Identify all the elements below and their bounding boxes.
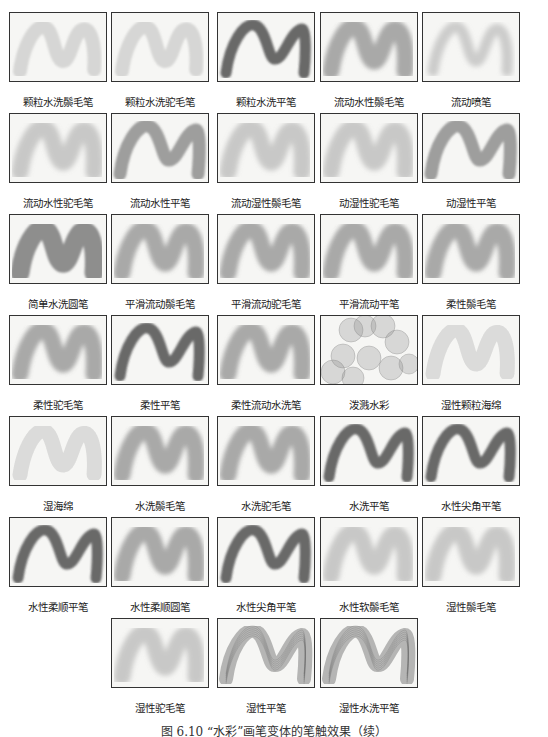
brush-variant-label: 流动水性平笔 bbox=[101, 195, 219, 210]
brush-stroke-preview bbox=[422, 517, 520, 587]
brush-variant-label: 湿性驼毛笔 bbox=[101, 700, 219, 715]
brush-variant-label: 柔性鬃毛笔 bbox=[412, 296, 530, 311]
brush-variant-label: 柔性平笔 bbox=[101, 397, 219, 412]
brush-variant-label: 动湿性驼毛笔 bbox=[310, 195, 428, 210]
brush-stroke-preview bbox=[217, 517, 315, 587]
brush-variant-label: 水洗鬃毛笔 bbox=[101, 498, 219, 513]
brush-stroke-preview bbox=[422, 12, 520, 82]
brush-stroke-preview bbox=[111, 113, 209, 183]
brush-stroke-preview bbox=[9, 416, 107, 486]
brush-variant-label: 水性柔顺平笔 bbox=[0, 599, 117, 614]
brush-stroke-preview bbox=[320, 214, 418, 284]
brush-stroke-preview bbox=[111, 618, 209, 688]
brush-variant-label: 颗粒水洗平笔 bbox=[207, 94, 325, 109]
brush-variant-label: 柔性驼毛笔 bbox=[0, 397, 117, 412]
brush-stroke-preview bbox=[320, 618, 418, 688]
brush-variant-label: 湿海绵 bbox=[0, 498, 117, 513]
brush-stroke-preview bbox=[217, 416, 315, 486]
brush-stroke-preview bbox=[422, 214, 520, 284]
brush-variant-label: 水性尖角平笔 bbox=[207, 599, 325, 614]
brush-variant-label: 柔性流动水洗笔 bbox=[207, 397, 325, 412]
brush-variant-label: 流动喷笔 bbox=[412, 94, 530, 109]
brush-stroke-preview bbox=[422, 416, 520, 486]
brush-variant-label: 流动湿性鬃毛笔 bbox=[207, 195, 325, 210]
brush-variant-label: 水性尖角平笔 bbox=[412, 498, 530, 513]
brush-variant-label: 水洗平笔 bbox=[310, 498, 428, 513]
brush-stroke-preview bbox=[320, 416, 418, 486]
brush-stroke-preview bbox=[217, 214, 315, 284]
brush-stroke-preview bbox=[422, 315, 520, 385]
brush-stroke-preview bbox=[320, 113, 418, 183]
brush-variant-label: 平滑流动驼毛笔 bbox=[207, 296, 325, 311]
brush-variant-label: 水性柔顺圆笔 bbox=[101, 599, 219, 614]
brush-variant-label: 流动水性驼毛笔 bbox=[0, 195, 117, 210]
brush-variant-label: 动湿性平笔 bbox=[412, 195, 530, 210]
figure-caption: 图 6.10 “水彩”画笔变体的笔触效果（续） bbox=[0, 722, 548, 737]
brush-variant-label: 水性软鬃毛笔 bbox=[310, 599, 428, 614]
brush-stroke-preview bbox=[217, 12, 315, 82]
brush-variant-label: 流动水性鬃毛笔 bbox=[310, 94, 428, 109]
brush-variant-label: 颗粒水洗鬃毛笔 bbox=[0, 94, 117, 109]
brush-variant-label: 平滑流动平笔 bbox=[310, 296, 428, 311]
brush-stroke-preview bbox=[422, 113, 520, 183]
brush-stroke-preview bbox=[111, 416, 209, 486]
brush-variant-label: 简单水洗圆笔 bbox=[0, 296, 117, 311]
brush-stroke-preview bbox=[111, 517, 209, 587]
brush-stroke-preview bbox=[9, 113, 107, 183]
brush-stroke-preview bbox=[9, 12, 107, 82]
brush-stroke-preview bbox=[111, 214, 209, 284]
brush-stroke-preview bbox=[111, 12, 209, 82]
brush-variant-label: 泼溅水彩 bbox=[310, 397, 428, 412]
brush-stroke-preview bbox=[9, 315, 107, 385]
brush-stroke-preview bbox=[217, 113, 315, 183]
brush-stroke-preview bbox=[320, 12, 418, 82]
brush-stroke-preview bbox=[9, 214, 107, 284]
brush-variant-label: 颗粒水洗驼毛笔 bbox=[101, 94, 219, 109]
brush-stroke-preview bbox=[217, 618, 315, 688]
brush-stroke-preview bbox=[320, 315, 418, 385]
brush-variant-label: 水洗驼毛笔 bbox=[207, 498, 325, 513]
brush-variant-label: 湿性颗粒海绵 bbox=[412, 397, 530, 412]
brush-variant-label: 湿性水洗平笔 bbox=[310, 700, 428, 715]
brush-stroke-preview bbox=[9, 517, 107, 587]
brush-stroke-preview bbox=[111, 315, 209, 385]
brush-variant-label: 湿性平笔 bbox=[207, 700, 325, 715]
brush-stroke-preview bbox=[320, 517, 418, 587]
brush-stroke-preview bbox=[217, 315, 315, 385]
brush-variant-label: 平滑流动鬃毛笔 bbox=[101, 296, 219, 311]
brush-variant-label: 湿性鬃毛笔 bbox=[412, 599, 530, 614]
